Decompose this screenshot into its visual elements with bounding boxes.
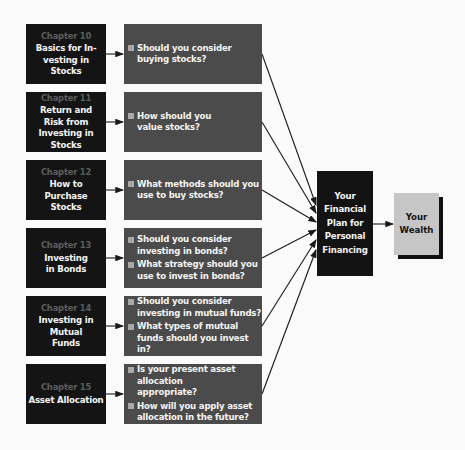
wealth-label: Your Wealth xyxy=(397,211,437,237)
chapter-box-10: Chapter 10 Basics for In- vesting in Sto… xyxy=(26,24,106,84)
question-item: How will you apply asset allocation in t… xyxy=(128,401,262,424)
chapter-box-15: Chapter 15 Asset Allocation xyxy=(26,364,106,424)
question-item: How should you value stocks? xyxy=(128,111,262,134)
chapter-box-13: Chapter 13 Investing in Bonds xyxy=(26,228,106,288)
chapter-title: Investing in Bonds xyxy=(41,253,91,276)
question-box-11: How should you value stocks? xyxy=(124,92,262,152)
question-box-10: Should you consider buying stocks? xyxy=(124,24,262,84)
chapter-number: Chapter 12 xyxy=(41,167,91,179)
question-to-plan-arrow xyxy=(262,54,316,205)
square-bullet-icon xyxy=(128,324,134,330)
question-item: Should you consider investing in mutual … xyxy=(128,296,262,319)
square-bullet-icon xyxy=(128,181,134,187)
chapter-number: Chapter 14 xyxy=(41,303,91,315)
chapter-number: Chapter 15 xyxy=(41,382,91,394)
square-bullet-icon xyxy=(128,299,134,305)
financial-plan-label: Your Financial Plan for Personal Financi… xyxy=(320,190,370,258)
square-bullet-icon xyxy=(128,113,134,119)
chapter-title: Return and Risk from Investing in Stocks xyxy=(31,105,101,151)
chapter-box-11: Chapter 11 Return and Risk from Investin… xyxy=(26,92,106,152)
chapter-title: Basics for In- vesting in Stocks xyxy=(31,43,101,78)
question-box-12: What methods should you use to buy stock… xyxy=(124,160,262,220)
question-to-plan-arrow xyxy=(262,122,316,213)
question-item: What types of mutual funds should you in… xyxy=(128,321,262,356)
question-to-plan-arrow xyxy=(262,250,316,394)
chapter-number: Chapter 10 xyxy=(41,31,91,43)
question-to-plan-arrow xyxy=(262,190,316,222)
square-bullet-icon xyxy=(128,237,134,243)
question-box-14: Should you consider investing in mutual … xyxy=(124,296,262,356)
wealth-box: Your Wealth xyxy=(394,193,439,255)
question-box-15: Is your present asset allocation appropr… xyxy=(124,364,262,424)
chapter-title: How to Purchase Stocks xyxy=(31,179,101,214)
question-item: Should you consider buying stocks? xyxy=(128,43,262,66)
chapter-number: Chapter 13 xyxy=(41,240,91,252)
question-box-13: Should you consider investing in bonds? … xyxy=(124,228,262,288)
question-item: Is your present asset allocation appropr… xyxy=(128,364,262,399)
chapter-number: Chapter 11 xyxy=(41,93,91,105)
financial-plan-box: Your Financial Plan for Personal Financi… xyxy=(317,171,373,276)
question-item: What strategy should you use to invest i… xyxy=(128,259,262,282)
square-bullet-icon xyxy=(128,45,134,51)
question-item: What methods should you use to buy stock… xyxy=(128,179,262,202)
chapter-box-14: Chapter 14 Investing in Mutual Funds xyxy=(26,296,106,356)
chapter-title: Asset Allocation xyxy=(27,395,105,407)
square-bullet-icon xyxy=(128,403,134,409)
square-bullet-icon xyxy=(128,262,134,268)
question-to-plan-arrow xyxy=(262,240,316,326)
square-bullet-icon xyxy=(128,367,134,373)
question-item: Should you consider investing in bonds? xyxy=(128,234,262,257)
chapter-box-12: Chapter 12 How to Purchase Stocks xyxy=(26,160,106,220)
chapter-title: Investing in Mutual Funds xyxy=(36,315,96,350)
